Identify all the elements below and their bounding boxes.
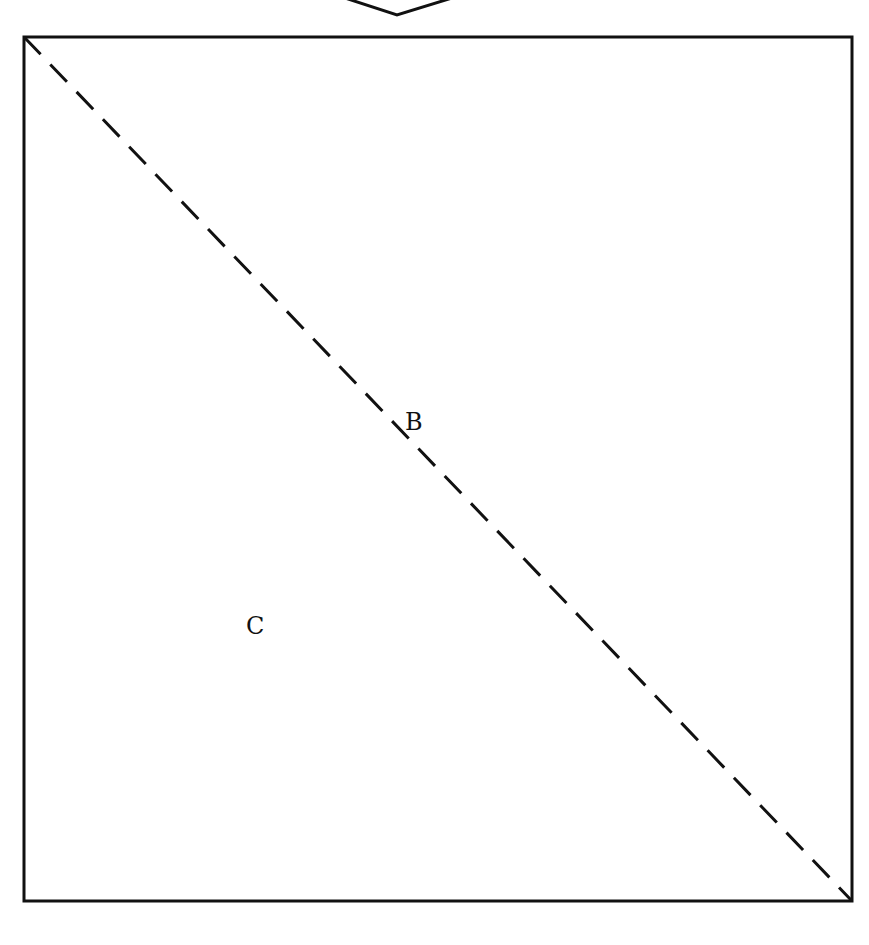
label-b: B [405, 408, 423, 436]
dashed-diagonal [24, 37, 852, 901]
chevron-down-icon [345, 0, 452, 15]
label-c: C [246, 612, 264, 640]
diagram-canvas: B C [0, 0, 869, 945]
